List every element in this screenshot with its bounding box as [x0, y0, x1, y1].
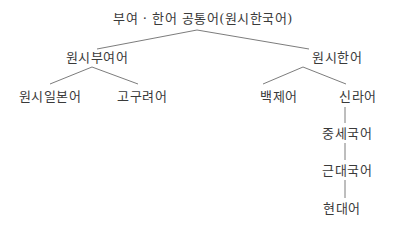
node-middle-korean: 중세국어: [322, 126, 372, 142]
tree-edges: [0, 0, 395, 228]
edge-proto-han-silla: [303, 67, 346, 84]
node-proto-japanese: 원시일본어: [19, 89, 82, 105]
node-early-modern-korean: 근대국어: [322, 163, 372, 179]
edge-proto-han-baekje: [263, 67, 303, 84]
node-goguryeo: 고구려어: [117, 89, 167, 105]
edge-root-proto-buyeo: [97, 30, 197, 49]
node-modern-korean: 현대어: [323, 201, 361, 217]
node-silla: 신라어: [339, 89, 377, 105]
node-proto-han: 원시한어: [312, 50, 362, 66]
node-baekje: 백제어: [260, 89, 298, 105]
node-root: 부여 · 한어 공통어(원시한국어): [113, 11, 293, 27]
edge-root-proto-han: [197, 30, 309, 49]
edge-proto-buyeo-goguryeo: [92, 67, 138, 84]
edge-proto-buyeo-proto-japanese: [50, 67, 92, 84]
node-proto-buyeo: 원시부여어: [66, 50, 129, 66]
